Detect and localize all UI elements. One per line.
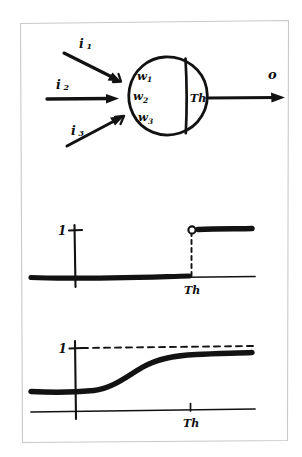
- neuron-threshold-label: Th: [190, 92, 206, 105]
- sigmoid-chart-y-tick-label: 1: [59, 342, 67, 356]
- input-3-label: i: [71, 123, 76, 138]
- step-chart-y-tick: [69, 230, 82, 231]
- input-2-subscript: 2: [63, 82, 70, 92]
- sigmoid-chart-x-axis: [31, 409, 255, 412]
- input-1-label: i: [79, 36, 84, 51]
- step-chart-series-high: [198, 229, 252, 230]
- sigmoid-function-chart: 1 Th: [31, 341, 255, 430]
- sigmoid-chart-y-axis: [75, 341, 76, 419]
- sigmoid-chart-asymptote-dashed-line: [82, 346, 253, 348]
- output-arrow: [207, 93, 285, 103]
- sigmoid-chart-y-tick: [70, 348, 83, 349]
- output-label: o: [268, 67, 277, 82]
- input-1-subscript: 1: [87, 41, 93, 51]
- input-arrow-2: [47, 94, 119, 104]
- step-chart-x-tick-label: Th: [184, 284, 200, 297]
- weight-2-subscript: 2: [142, 96, 148, 105]
- input-3-subscript: 3: [79, 128, 85, 138]
- sigmoid-chart-series: [31, 353, 252, 393]
- neuron-figure: i 1 i 2 i 3 w 1 w: [0, 0, 302, 457]
- neuron-divider-line: [186, 59, 187, 134]
- step-chart-open-circle-marker: [188, 226, 195, 233]
- step-function-chart: 1 Th: [31, 224, 255, 298]
- sigmoid-chart-x-tick-label: Th: [183, 417, 199, 430]
- neuron-schematic: i 1 i 2 i 3 w 1 w: [47, 36, 285, 147]
- figure-page: i 1 i 2 i 3 w 1 w: [0, 0, 302, 457]
- input-2-label: i: [56, 77, 61, 92]
- step-chart-y-tick-label: 1: [58, 224, 66, 238]
- step-chart-series-low: [31, 276, 189, 278]
- input-arrow-1: [64, 53, 121, 82]
- weight-1-subscript: 1: [147, 75, 152, 84]
- weight-3-subscript: 3: [148, 117, 153, 126]
